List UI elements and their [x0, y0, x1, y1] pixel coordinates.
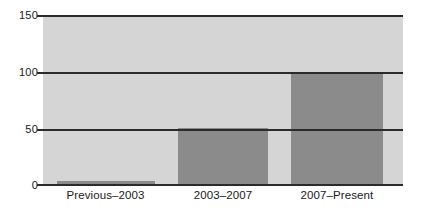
gridline-100 [43, 72, 403, 74]
x-axis-label-2003-2007: 2003–2007 [178, 190, 268, 202]
x-axis: Previous–2003 2003–2007 2007–Present [43, 190, 403, 212]
bar-chart: 150 100 50 0 Previous–2003 2003–2007 200… [0, 0, 422, 214]
gridline-150 [43, 15, 403, 17]
bar-2003-2007 [178, 128, 268, 184]
y-axis-tick-label-150: 150 [4, 10, 38, 21]
x-axis-label-2007-present: 2007–Present [283, 190, 391, 202]
y-axis-tick-label-50: 50 [4, 124, 38, 135]
gridline-50 [43, 129, 403, 131]
y-axis: 150 100 50 0 [0, 0, 38, 214]
x-axis-label-previous-2003: Previous–2003 [43, 190, 168, 202]
y-axis-tick-label-100: 100 [4, 67, 38, 78]
plot-area [43, 15, 403, 186]
y-axis-tick-label-0: 0 [4, 180, 38, 191]
gridline-0 [43, 184, 403, 186]
